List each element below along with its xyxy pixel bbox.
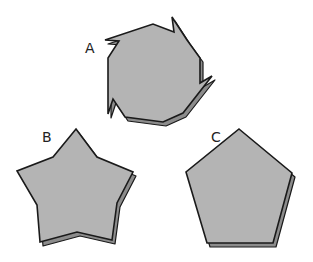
shapes-diagram: A B C	[0, 0, 313, 262]
shape-a-label: A	[85, 40, 95, 56]
shape-b-label: B	[42, 129, 52, 145]
shape-a-face	[105, 17, 212, 122]
shape-a: A	[85, 17, 215, 126]
shape-b: B	[17, 129, 136, 246]
shape-c-face	[186, 129, 292, 243]
shape-c-label: C	[211, 129, 221, 145]
shape-c: C	[186, 129, 295, 247]
